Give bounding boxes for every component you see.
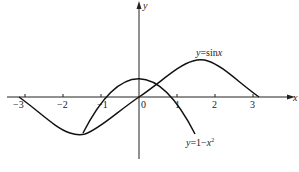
function-graph: x y −3 −2 −1 0 1 2 3 y=sinx y=1−x2 xyxy=(0,0,299,172)
y-axis-arrow-icon xyxy=(137,1,142,9)
x-axis-label: x xyxy=(292,92,298,103)
parabola-curve-label: y=1−x2 xyxy=(185,137,214,148)
tick-label: −2 xyxy=(57,99,68,110)
tick-label: −1 xyxy=(97,99,108,110)
tick-label: −3 xyxy=(13,99,24,110)
x-ticks: −3 −2 −1 0 1 2 3 xyxy=(13,94,255,110)
sine-curve-label: y=sinx xyxy=(195,47,223,58)
y-axis-label: y xyxy=(142,0,148,11)
tick-label: 3 xyxy=(250,99,255,110)
origin-label: 0 xyxy=(141,99,146,110)
tick-label: 2 xyxy=(212,99,217,110)
